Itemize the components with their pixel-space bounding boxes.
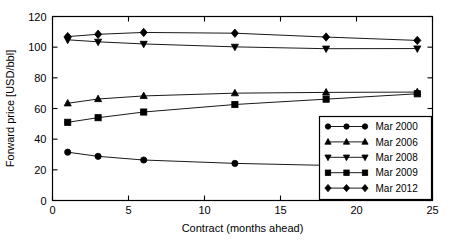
data-point-mar-2012-12 (231, 29, 238, 37)
data-point-mar-2006-12 (231, 89, 238, 96)
data-point-mar-2012-24 (414, 36, 421, 44)
x-tick-label: 25 (426, 204, 438, 216)
y-tick-label: 100 (28, 41, 46, 53)
data-point-legend-mar-2000 (362, 124, 367, 129)
x-tick-label: 15 (274, 204, 286, 216)
data-point-mar-2008-24 (414, 46, 421, 53)
data-point-legend-mar-2009 (325, 170, 330, 175)
data-point-mar-2009-24 (414, 91, 420, 97)
data-point-mar-2008-3 (95, 39, 102, 46)
y-tick-label: 80 (34, 72, 46, 84)
data-point-legend-mar-2009 (344, 170, 349, 175)
series-line-mar-2008 (68, 40, 418, 49)
data-point-mar-2000-12 (232, 160, 238, 166)
y-tick-label: 20 (34, 164, 46, 176)
data-point-mar-2012-18 (323, 33, 330, 41)
y-tick-label: 120 (28, 11, 46, 23)
data-point-mar-2006-6 (140, 92, 147, 99)
data-point-mar-2012-6 (140, 28, 147, 36)
x-tick-label: 10 (198, 204, 210, 216)
forward-price-line-chart: 0510152025020406080100120Contract (month… (0, 0, 450, 246)
data-point-mar-2008-18 (323, 46, 330, 53)
x-tick-label: 20 (350, 204, 362, 216)
data-point-legend-mar-2009 (362, 170, 367, 175)
legend-label-mar-2008: Mar 2008 (376, 152, 419, 163)
data-point-legend-mar-2000 (325, 124, 330, 129)
y-tick-label: 40 (34, 133, 46, 145)
y-tick-label: 60 (34, 103, 46, 115)
data-point-mar-2000-3 (95, 153, 101, 159)
data-point-mar-2012-3 (95, 30, 102, 38)
data-point-legend-mar-2000 (344, 124, 349, 129)
legend-label-mar-2009: Mar 2009 (376, 167, 419, 178)
data-point-mar-2008-12 (231, 44, 238, 51)
data-point-mar-2009-6 (141, 109, 147, 115)
data-point-mar-2000-6 (141, 157, 147, 163)
x-axis-label: Contract (months ahead) (182, 222, 304, 234)
data-point-mar-2009-3 (95, 115, 101, 121)
data-point-mar-2008-6 (140, 41, 147, 48)
legend-label-mar-2006: Mar 2006 (376, 137, 419, 148)
series-line-mar-2006 (68, 92, 418, 103)
data-point-mar-2009-12 (232, 101, 238, 107)
chart-figure: 0510152025020406080100120Contract (month… (0, 0, 450, 246)
data-point-mar-2000-1 (65, 149, 71, 155)
x-tick-label: 0 (49, 204, 55, 216)
legend-label-mar-2000: Mar 2000 (376, 121, 419, 132)
series-line-mar-2012 (68, 32, 418, 40)
data-point-mar-2009-18 (323, 96, 329, 102)
legend-label-mar-2012: Mar 2012 (376, 183, 419, 194)
data-point-mar-2009-1 (65, 119, 71, 125)
y-axis-label: Forward price [USD/bbl] (4, 50, 16, 167)
x-tick-label: 5 (125, 204, 131, 216)
y-tick-label: 0 (40, 195, 46, 207)
data-point-mar-2006-18 (323, 89, 330, 96)
